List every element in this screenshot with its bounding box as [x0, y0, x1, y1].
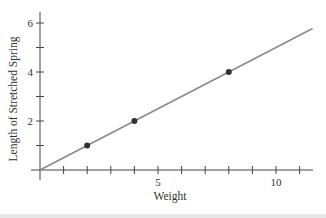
x-tick-label: 10 [271, 176, 283, 188]
y-tick-label: 2 [28, 115, 34, 127]
x-axis-label: Weight [140, 190, 200, 202]
chart-plot-area: 510246 [0, 0, 326, 218]
y-axis-label: Length of Stretched Spring [4, 24, 22, 174]
data-point [84, 143, 90, 149]
data-point [131, 118, 137, 124]
data-point [226, 69, 232, 75]
fit-line [40, 29, 313, 170]
x-tick-label: 5 [155, 176, 161, 188]
y-tick-label: 4 [28, 66, 34, 78]
bottom-divider [0, 214, 326, 218]
y-axis-label-text: Length of Stretched Spring [7, 37, 19, 162]
y-tick-label: 6 [28, 17, 34, 29]
